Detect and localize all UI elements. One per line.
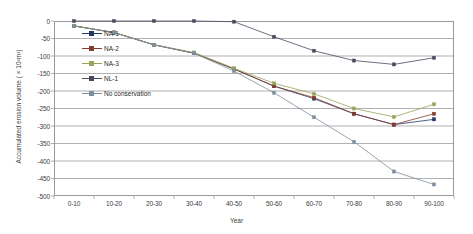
legend-item-na-3[interactable]: NA-3 bbox=[82, 56, 212, 71]
legend-item-no-conservation[interactable]: No conservation bbox=[82, 86, 212, 101]
y-axis-tick-label: -400 bbox=[24, 158, 50, 165]
x-axis-tick-label: 40-50 bbox=[214, 200, 254, 207]
y-axis-tick-label: -150 bbox=[24, 70, 50, 77]
legend-marker-icon bbox=[82, 59, 102, 69]
legend-item-label: NA-2 bbox=[104, 45, 119, 53]
y-axis-tick-label: -500 bbox=[24, 193, 50, 200]
legend-square-swatch bbox=[89, 61, 94, 66]
y-axis-tick-label: -200 bbox=[24, 88, 50, 95]
y-axis-tick-label: -300 bbox=[24, 123, 50, 130]
chart-legend: NA-1NA-2NA-3NL-1No conservation bbox=[82, 26, 212, 101]
y-axis-tick-label: -450 bbox=[24, 175, 50, 182]
legend-square-swatch bbox=[89, 31, 94, 36]
legend-marker-icon bbox=[82, 29, 102, 39]
y-axis-tick-label: 0 bbox=[24, 18, 50, 25]
legend-item-na-1[interactable]: NA-1 bbox=[82, 26, 212, 41]
x-axis-tick-label: 0-10 bbox=[54, 200, 94, 207]
x-axis-tick-label: 90-100 bbox=[414, 200, 454, 207]
x-axis-ticks bbox=[54, 196, 454, 199]
legend-item-label: NA-3 bbox=[104, 60, 119, 68]
legend-square-swatch bbox=[89, 46, 94, 51]
y-axis-tick-label: -350 bbox=[24, 140, 50, 147]
x-axis-tick-label: 70-80 bbox=[334, 200, 374, 207]
x-axis-tick-label: 30-40 bbox=[174, 200, 214, 207]
legend-marker-icon bbox=[82, 74, 102, 84]
x-axis-tick-label: 50-60 bbox=[254, 200, 294, 207]
legend-item-nl-1[interactable]: NL-1 bbox=[82, 71, 212, 86]
x-axis-tick-label: 80-90 bbox=[374, 200, 414, 207]
legend-marker-icon bbox=[82, 44, 102, 54]
legend-square-swatch bbox=[89, 76, 94, 81]
y-axis-tick-label: -50 bbox=[24, 35, 50, 42]
legend-marker-icon bbox=[82, 89, 102, 99]
legend-item-label: No conservation bbox=[104, 90, 151, 98]
legend-item-label: NA-1 bbox=[104, 30, 119, 38]
y-axis-tick-label: -100 bbox=[24, 53, 50, 60]
legend-square-swatch bbox=[89, 91, 94, 96]
y-axis-tick-label: -250 bbox=[24, 105, 50, 112]
erosion-volume-line-chart: Accumulated erosion volume ( × 10³m³) 0-… bbox=[0, 0, 473, 234]
legend-item-na-2[interactable]: NA-2 bbox=[82, 41, 212, 56]
x-axis-tick-label: 60-70 bbox=[294, 200, 334, 207]
x-axis-tick-label: 20-30 bbox=[134, 200, 174, 207]
x-axis-title: Year bbox=[0, 217, 473, 224]
x-axis-tick-label: 10-20 bbox=[94, 200, 134, 207]
legend-item-label: NL-1 bbox=[104, 75, 118, 83]
y-axis-title: Accumulated erosion volume ( × 10³m³) bbox=[15, 27, 22, 187]
